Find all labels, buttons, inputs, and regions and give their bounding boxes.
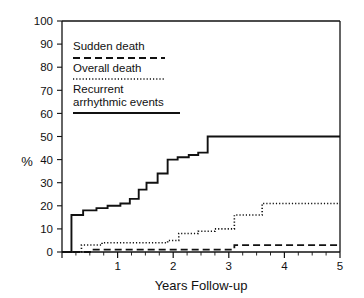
x-tick-label-2: 2 — [170, 260, 176, 272]
y-tick-label-0: 0 — [47, 246, 53, 258]
survival-step-chart: 0 10 20 30 40 50 60 70 80 90 100 % 1 — [0, 0, 364, 298]
y-tick-label-90: 90 — [40, 38, 53, 50]
x-tick-label-5: 5 — [337, 260, 343, 272]
y-tick-label-50: 50 — [40, 131, 53, 143]
y-axis-title: % — [21, 154, 33, 169]
y-tick-label-80: 80 — [40, 61, 53, 73]
chart-figure: 0 10 20 30 40 50 60 70 80 90 100 % 1 — [0, 0, 364, 298]
y-tick-label-70: 70 — [40, 85, 53, 97]
legend-label-overall-death: Overall death — [73, 62, 141, 74]
y-tick-label-100: 100 — [34, 15, 53, 27]
legend-label-sudden-death: Sudden death — [73, 40, 145, 52]
y-tick-label-10: 10 — [40, 223, 53, 235]
legend-label-recurrent-line2: arrhythmic events — [73, 96, 164, 108]
y-tick-label-40: 40 — [40, 154, 53, 166]
x-axis-title: Years Follow-up — [155, 278, 248, 293]
legend-label-recurrent-line1: Recurrent — [73, 83, 124, 95]
y-tick-label-20: 20 — [40, 200, 53, 212]
x-tick-label-3: 3 — [226, 260, 232, 272]
x-tick-label-1: 1 — [114, 260, 120, 272]
chart-background — [0, 0, 364, 298]
y-tick-label-30: 30 — [40, 177, 53, 189]
y-tick-label-60: 60 — [40, 108, 53, 120]
x-tick-label-4: 4 — [281, 260, 288, 272]
